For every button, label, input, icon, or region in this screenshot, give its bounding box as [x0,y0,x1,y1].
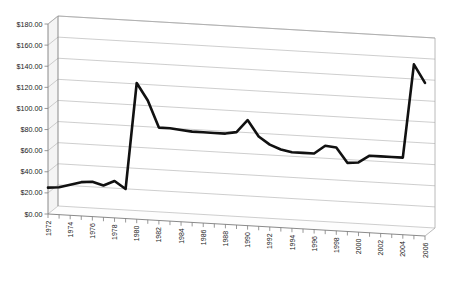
wall-top [58,16,435,38]
gridlines [48,16,435,228]
x-axis-tick-label: 2002 [377,240,384,256]
x-axis-tick-label: 1974 [67,222,74,238]
x-axis-tick-label: 1990 [244,232,251,248]
x-axis-tick-label: 1978 [111,224,118,240]
gridline [58,100,435,122]
chart-container: $0.00$20.00$40.00$60.00$80.00$100.00$120… [0,0,455,290]
data-series-line [48,64,425,189]
x-axis-tick-label: 1994 [289,235,296,251]
y-axis-tick-label: $40.00 [21,167,43,176]
x-axis-tick-label: 1972 [45,220,52,236]
x-axis-tick-label: 1988 [222,231,229,247]
y-axis-labels: $0.00$20.00$40.00$60.00$80.00$100.00$120… [17,20,43,219]
y-axis-tick-label: $180.00 [17,20,43,29]
line-chart: $0.00$20.00$40.00$60.00$80.00$100.00$120… [0,0,455,290]
x-axis-tick-label: 2000 [355,239,362,255]
x-axis-tick-label: 1976 [89,223,96,239]
y-axis-tick-label: $140.00 [17,62,43,71]
gridline [58,185,435,207]
y-axis-tick-label: $20.00 [21,188,43,197]
y-axis-ticks [45,24,49,214]
gridline [58,143,435,165]
plot-floor [48,206,435,236]
x-axis-tick-label: 1984 [178,228,185,244]
x-axis-tick-label: 1980 [133,226,140,242]
x-axis-tick-label: 2006 [422,242,429,258]
plot-side-wall [48,16,58,214]
y-axis-tick-label: $160.00 [17,41,43,50]
x-axis-tick-label: 1996 [311,236,318,252]
y-axis-tick-label: $100.00 [17,104,43,113]
y-axis-tick-label: $0.00 [25,210,43,219]
x-axis-tick-label: 1992 [266,233,273,249]
gridline [58,58,435,80]
x-axis-tick-label: 1986 [200,229,207,245]
gridline [58,122,435,144]
x-axis-tick-label: 2004 [399,241,406,257]
gridline [58,37,435,59]
y-axis-tick-label: $60.00 [21,146,43,155]
x-axis-tick-label: 1998 [333,237,340,253]
gridline [58,79,435,101]
y-axis-tick-label: $120.00 [17,83,43,92]
y-axis-tick-label: $80.00 [21,125,43,134]
x-axis-tick-label: 1982 [155,227,162,243]
